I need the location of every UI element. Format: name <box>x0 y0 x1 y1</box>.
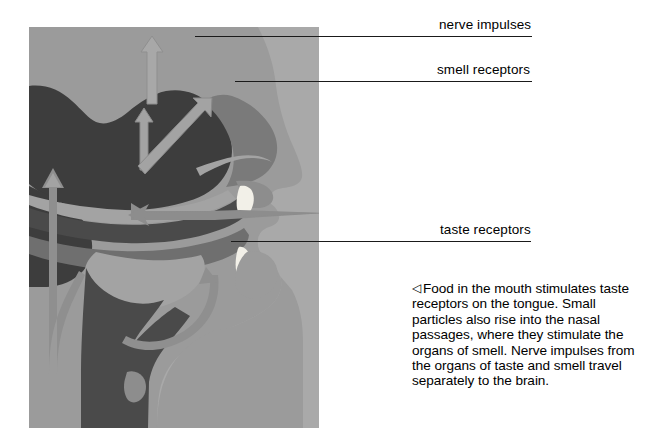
figure-page: nerve impulses smell receptors taste rec… <box>0 0 652 438</box>
callout-label-nerve-impulses: nerve impulses <box>439 17 531 32</box>
callout-label-taste-receptors: taste receptors <box>440 222 531 237</box>
leader-line-nerve-impulses <box>195 36 532 37</box>
leader-line-smell-receptors <box>235 81 532 82</box>
caption-direction-marker: ◁ <box>412 281 421 295</box>
callout-label-smell-receptors: smell receptors <box>437 62 530 77</box>
leader-line-taste-receptors <box>231 241 531 242</box>
figure-caption: ◁Food in the mouth stimulates taste rece… <box>412 281 644 389</box>
illustration-clip-group <box>29 27 325 428</box>
caption-text: Food in the mouth stimulates taste recep… <box>412 281 635 388</box>
